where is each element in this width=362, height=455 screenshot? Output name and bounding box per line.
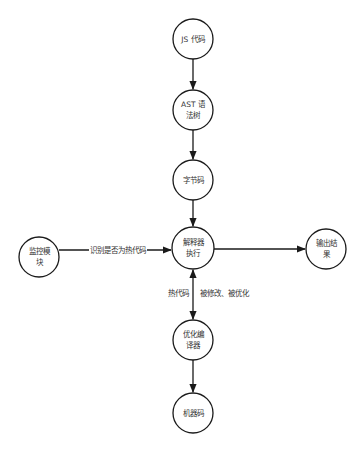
node-machine-code-label: 机器码 — [183, 408, 205, 418]
node-monitor-label-line1: 监控模 — [29, 246, 51, 256]
node-js-code-label: JS 代码 — [180, 34, 205, 44]
edge-labels: 识别是否为热代码 热代码 被修改、被优化 — [89, 244, 250, 298]
node-interpreter[interactable]: 解释器 执行 — [172, 227, 214, 269]
node-interpreter-label-line2: 执行 — [186, 248, 201, 258]
node-ast-label-line1: AST 语 — [181, 99, 206, 109]
node-interpreter-circle — [172, 227, 214, 269]
node-optimizer[interactable]: 优化编 译器 — [173, 320, 213, 360]
js-engine-pipeline-diagram: 识别是否为热代码 热代码 被修改、被优化 JS 代码 AST 语 法树 字节码 … — [0, 0, 362, 455]
edge-label-hot-code: 热代码 — [168, 288, 190, 298]
node-output-label-line2: 果 — [323, 250, 331, 259]
node-interpreter-label-line1: 解释器 — [183, 237, 205, 247]
node-ast-circle — [173, 90, 213, 130]
node-output[interactable]: 输出结 果 — [306, 229, 346, 269]
edge-label-identify-hot-code: 识别是否为热代码 — [90, 245, 147, 255]
node-output-label-line1: 输出结 — [316, 238, 338, 248]
node-bytecode[interactable]: 字节码 — [173, 160, 213, 200]
node-machine-code[interactable]: 机器码 — [173, 393, 213, 433]
node-optimizer-circle — [173, 320, 213, 360]
node-optimizer-label-line2: 译器 — [186, 341, 201, 350]
node-monitor-label-line2: 块 — [36, 257, 44, 267]
edge-label-modified-optimized: 被修改、被优化 — [200, 288, 250, 298]
node-output-circle — [306, 229, 346, 269]
node-monitor[interactable]: 监控模 块 — [19, 237, 59, 277]
node-ast[interactable]: AST 语 法树 — [173, 90, 213, 130]
node-optimizer-label-line1: 优化编 — [183, 329, 204, 339]
node-monitor-circle — [19, 237, 59, 277]
node-ast-label-line2: 法树 — [186, 110, 201, 120]
node-js-code[interactable]: JS 代码 — [173, 19, 213, 59]
node-bytecode-label: 字节码 — [183, 175, 205, 185]
